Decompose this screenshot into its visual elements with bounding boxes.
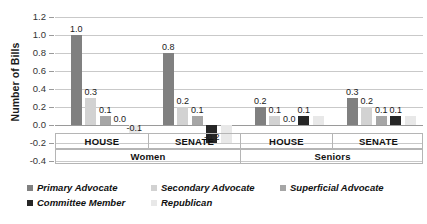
legend-swatch-icon	[27, 200, 33, 206]
group-label-women: Women	[56, 150, 240, 163]
bar	[192, 116, 203, 125]
y-tick-mark	[49, 35, 54, 36]
y-tick-label: 0.0	[16, 119, 46, 130]
legend-swatch-icon	[151, 185, 157, 191]
gridline	[55, 53, 423, 54]
y-tick-label: 0.4	[16, 83, 46, 94]
bar-value-label: -0.1	[121, 123, 147, 133]
bar-value-label: 0.1	[184, 105, 210, 115]
y-tick-label: -0.4	[16, 155, 46, 166]
bar	[298, 116, 309, 125]
bar	[390, 116, 401, 125]
legend-label: Superficial Advocate	[290, 182, 384, 193]
legend-label: Primary Advocate	[37, 182, 117, 193]
category-label-house-0: HOUSE	[56, 134, 148, 148]
category-label-senate-3: SENATE	[332, 134, 424, 148]
y-tick-label: -0.2	[16, 137, 46, 148]
y-tick-mark	[49, 17, 54, 18]
y-tick-label: 0.2	[16, 101, 46, 112]
category-label-house-2: HOUSE	[240, 134, 332, 148]
category-axis-chambers: HOUSESENATEHOUSESENATE	[55, 133, 423, 149]
group-label-seniors: Seniors	[240, 150, 424, 163]
y-tick-mark	[49, 143, 54, 144]
gridline	[55, 17, 423, 18]
y-tick-label: 0.6	[16, 65, 46, 76]
bar	[405, 116, 416, 125]
bar-value-label: 1.0	[63, 24, 89, 34]
category-axis-groups: WomenSeniors	[55, 149, 423, 164]
category-label-senate-1: SENATE	[148, 134, 240, 148]
bar-chart: Number of Bills 1.21.00.80.60.40.20.0-0.…	[0, 0, 427, 224]
y-tick-label: 1.0	[16, 29, 46, 40]
legend-swatch-icon	[27, 185, 33, 191]
bar	[313, 116, 324, 125]
bar	[163, 53, 174, 125]
y-tick-mark	[49, 161, 54, 162]
gridline	[55, 89, 423, 90]
legend-label: Committee Member	[37, 197, 125, 208]
legend-swatch-icon	[151, 200, 157, 206]
bar-value-label: 0.3	[78, 87, 104, 97]
legend-swatch-icon	[280, 185, 286, 191]
y-tick-mark	[49, 125, 54, 126]
bar	[376, 116, 387, 125]
y-tick-label: 1.2	[16, 11, 46, 22]
legend-item-republican[interactable]: Republican	[151, 196, 212, 209]
bar-value-label: 0.8	[155, 42, 181, 52]
legend-item-superficial-advocate[interactable]: Superficial Advocate	[280, 181, 384, 194]
legend-item-secondary-advocate[interactable]: Secondary Advocate	[151, 181, 255, 194]
y-tick-mark	[49, 89, 54, 90]
y-tick-mark	[49, 53, 54, 54]
legend-label: Republican	[161, 197, 212, 208]
y-tick-mark	[49, 107, 54, 108]
bar	[71, 35, 82, 125]
gridline	[55, 35, 423, 36]
legend-label: Secondary Advocate	[161, 182, 255, 193]
y-tick-mark	[49, 71, 54, 72]
legend-item-primary-advocate[interactable]: Primary Advocate	[27, 181, 117, 194]
gridline	[55, 125, 423, 126]
legend-item-committee-member[interactable]: Committee Member	[27, 196, 125, 209]
gridline	[55, 71, 423, 72]
y-tick-label: 0.8	[16, 47, 46, 58]
bar-value-label: 0.1	[383, 105, 409, 115]
bar-value-label: 0.1	[291, 105, 317, 115]
chart-legend: Primary AdvocateSecondary AdvocateSuperf…	[0, 181, 427, 217]
